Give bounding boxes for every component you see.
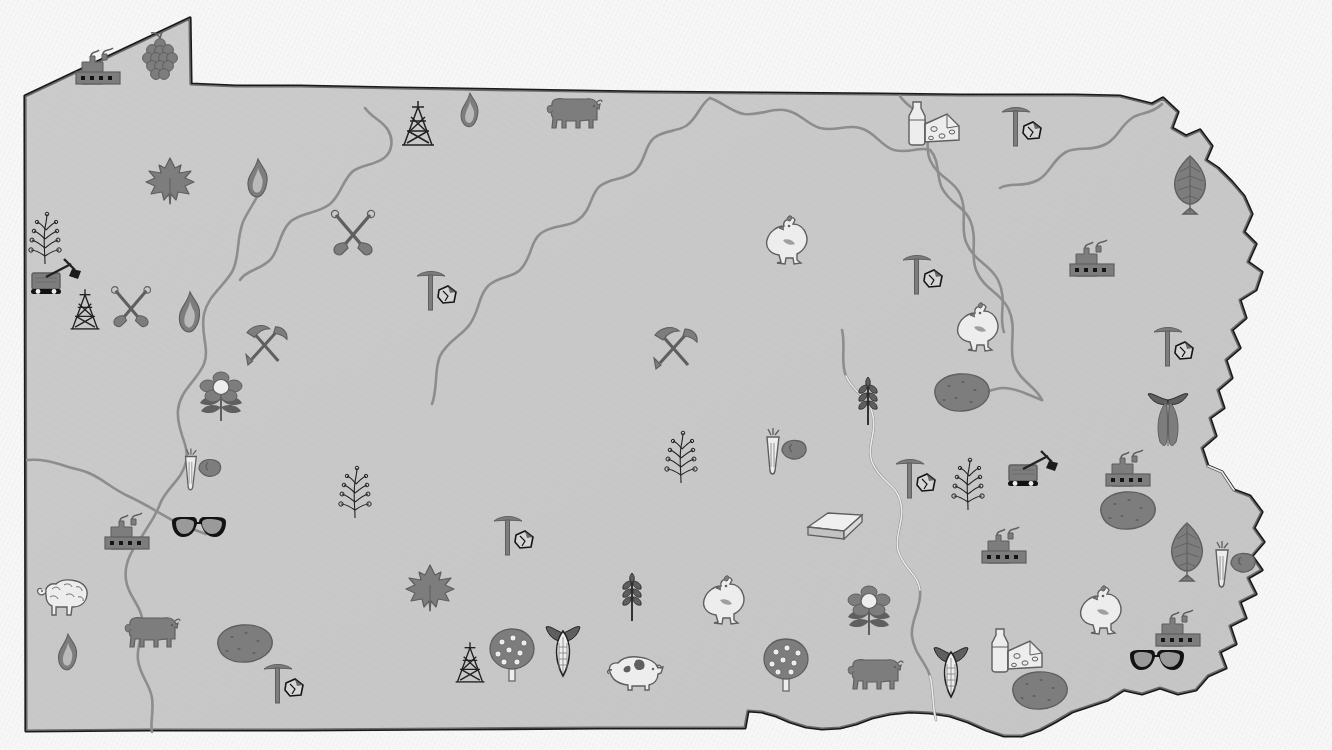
- eyeglasses-icon: [170, 515, 228, 541]
- chicken-icon: [759, 214, 813, 266]
- apple-tree-icon: [486, 625, 538, 683]
- chicken-icon: [696, 574, 750, 626]
- flower-icon: [843, 583, 895, 637]
- pennsylvania-resource-map: [0, 0, 1332, 750]
- pick-shovel-icon: [649, 323, 701, 371]
- resource-icon-layer: [0, 0, 1332, 750]
- potato-icon: [927, 370, 993, 414]
- coal-pick-icon: [491, 511, 537, 559]
- grapes-icon: [139, 30, 181, 82]
- tree-leaf-icon: [1169, 154, 1211, 216]
- sheep-icon: [34, 575, 96, 619]
- mushroom-sprig-icon: [946, 456, 990, 512]
- factory-icon: [1066, 238, 1122, 278]
- flower-icon: [195, 369, 247, 423]
- coal-pick-icon: [1151, 322, 1197, 370]
- mushroom-sprig-icon: [659, 429, 703, 485]
- tree-leaf-icon: [1166, 521, 1208, 583]
- coal-pick-icon: [414, 266, 460, 314]
- tobacco-icon: [1146, 388, 1190, 450]
- coal-pick-icon: [261, 659, 307, 707]
- carrot-veg-icon: [172, 445, 226, 495]
- potato-icon: [1093, 488, 1159, 532]
- eyeglasses-icon: [1128, 648, 1186, 674]
- gas-flame-icon: [53, 629, 83, 675]
- apple-tree-icon: [760, 635, 812, 693]
- cow-icon: [120, 611, 182, 653]
- dairy-icon: [897, 96, 963, 148]
- carrot-veg-icon: [1204, 540, 1258, 590]
- pick-shovel-icon: [240, 320, 292, 368]
- corn-icon: [542, 623, 584, 679]
- cow-icon: [843, 653, 905, 695]
- oil-derrick-icon: [399, 99, 437, 149]
- chicken-icon: [1073, 584, 1127, 636]
- corn-icon: [930, 644, 972, 700]
- wheat-icon: [851, 373, 885, 427]
- factory-icon: [1152, 608, 1208, 648]
- factory-icon: [72, 46, 128, 86]
- crossed-shovels-icon: [327, 209, 379, 257]
- coal-pick-icon: [999, 102, 1045, 150]
- coal-pick-icon: [893, 454, 939, 502]
- factory-icon: [1102, 448, 1158, 488]
- chicken-icon: [950, 301, 1004, 353]
- maple-leaf-icon: [403, 561, 457, 615]
- oil-derrick-icon: [66, 285, 104, 335]
- maple-leaf-icon: [143, 154, 197, 208]
- crossed-shovels-icon: [105, 283, 157, 331]
- potato-icon: [1005, 668, 1071, 712]
- quarry-car-icon: [1005, 449, 1065, 491]
- gas-flame-icon: [243, 155, 273, 201]
- mushroom-sprig-icon: [333, 464, 377, 520]
- limestone-block-icon: [804, 505, 866, 543]
- factory-icon: [978, 525, 1034, 565]
- carrot-veg-icon: [755, 427, 809, 477]
- wheat-icon: [615, 569, 649, 623]
- gas-flame-icon: [455, 87, 485, 133]
- cow-icon: [542, 92, 604, 134]
- pig-icon: [604, 652, 666, 692]
- oil-derrick-icon: [451, 638, 489, 688]
- factory-icon: [101, 511, 157, 551]
- gas-flame-icon: [175, 289, 205, 335]
- coal-pick-icon: [900, 250, 946, 298]
